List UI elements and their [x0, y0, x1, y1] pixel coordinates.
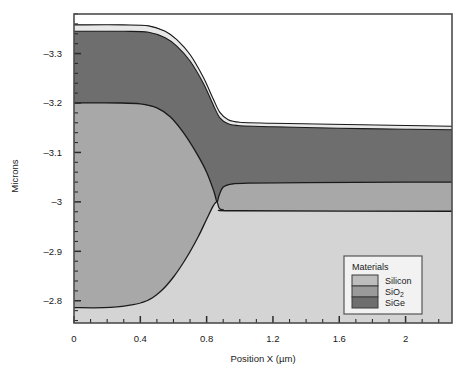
plot-canvas: 00.40.81.21.62 –3.3–3.2–3.1–3–2.9–2.8 Po… — [0, 0, 463, 379]
x-tick-label: 0 — [71, 333, 76, 344]
y-tick-label: –3.2 — [44, 97, 63, 108]
x-tick-label: 2 — [403, 333, 408, 344]
y-tick-label: –3 — [51, 196, 62, 207]
x-tick-label: 0.8 — [200, 333, 213, 344]
y-tick-label: –3.3 — [44, 48, 63, 59]
y-tick-label: –2.9 — [44, 246, 63, 257]
x-axis-title: Position X (µm) — [230, 353, 295, 364]
materials-cross-section-figure: 00.40.81.21.62 –3.3–3.2–3.1–3–2.9–2.8 Po… — [0, 0, 463, 379]
legend-label-silicon: Silicon — [385, 276, 412, 286]
x-tick-label: 1.2 — [266, 333, 279, 344]
x-tick-label: 1.6 — [333, 333, 346, 344]
legend-label-sige: SiGe — [385, 298, 405, 308]
y-tick-label: –2.8 — [44, 295, 63, 306]
y-tick-label: –3.1 — [44, 147, 63, 158]
legend-title: Materials — [352, 262, 389, 272]
y-axis-title: Microns — [9, 159, 20, 193]
legend-swatch-silicon[interactable] — [352, 275, 378, 286]
x-tick-label: 0.4 — [134, 333, 147, 344]
legend-swatch-sige[interactable] — [352, 297, 378, 308]
legend[interactable]: MaterialsSiliconSiO2SiGe — [344, 256, 422, 314]
legend-swatch-sio2[interactable] — [352, 286, 378, 297]
